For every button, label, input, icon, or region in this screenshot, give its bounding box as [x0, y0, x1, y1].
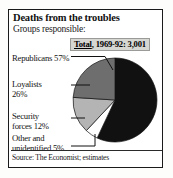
chart-subtitle: Groups responsible:	[13, 24, 85, 34]
pie-slices	[73, 58, 157, 142]
pie-slice-loyalists	[73, 58, 115, 100]
page-title: Deaths from the troubles	[13, 12, 120, 23]
pie-chart	[71, 48, 163, 148]
source-note: Source: The Economist; estimates	[12, 153, 109, 162]
slice-label-republicans: Republicans 57%	[12, 54, 69, 64]
source-divider	[11, 150, 162, 151]
slice-label-security-forces: Security forces 12%	[12, 112, 49, 131]
slice-label-loyalists: Loyalists 26%	[12, 80, 42, 99]
leader-line-other-unidentified	[71, 134, 95, 146]
chart-panel: Deaths from the troubles Groups responsi…	[8, 9, 163, 168]
